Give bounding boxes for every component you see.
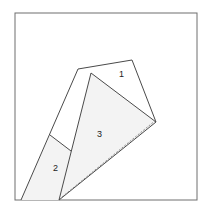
region-1-label: 1	[119, 69, 124, 79]
region-3-shape	[59, 73, 156, 200]
diagram-canvas: 1 2 3	[0, 0, 206, 218]
region-3-label: 3	[97, 129, 102, 139]
region-2-label: 2	[53, 163, 58, 173]
